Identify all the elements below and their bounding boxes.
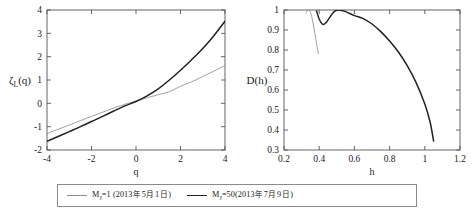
legend-date-open: (2013 [113, 190, 133, 199]
x-tick-label: 0 [134, 154, 139, 164]
x-tick-label: 2 [178, 154, 183, 164]
y-tick-label: 0.8 [267, 45, 279, 55]
zeta-q-plot: -4-2024-2-101234qζL(q) [0, 0, 236, 180]
series-line-0 [47, 66, 225, 134]
legend-date-month-char: 月 [268, 190, 277, 199]
y-tick-label: 2 [37, 52, 42, 62]
x-axis-label: q [134, 166, 139, 177]
d-h-plot: 0.20.40.60.811.20.30.40.50.60.70.80.91hD… [236, 0, 473, 180]
x-tick-label: -4 [43, 154, 51, 164]
x-axis-label: h [370, 166, 375, 177]
x-tick-label: 1 [422, 154, 427, 164]
y-tick-label: 3 [37, 29, 42, 39]
legend-date-day-char: 日 [281, 190, 290, 199]
y-tick-label: 0.6 [267, 85, 279, 95]
d-h-panel: 0.20.40.60.811.20.30.40.50.60.70.80.91hD… [236, 0, 473, 180]
y-tick-label: 0.9 [267, 25, 279, 35]
y-tick-label: 4 [37, 5, 42, 15]
legend-value: =1 [102, 190, 111, 199]
y-tick-label: 0.7 [267, 65, 279, 75]
y-axis-label: ζL(q) [9, 74, 31, 89]
legend-date-year-char: 年 [133, 190, 142, 199]
figure-container: -4-2024-2-101234qζL(q) 0.20.40.60.811.20… [0, 0, 473, 213]
y-tick-label: 0.5 [267, 105, 279, 115]
legend-item-mj1: MJ=1 (2013年5月1日) [58, 191, 171, 201]
legend-date-close: ) [290, 190, 293, 199]
legend-swatch-mj50 [187, 195, 207, 196]
y-tick-label: 0.4 [267, 125, 279, 135]
plot-frame [284, 10, 460, 150]
y-tick-label: -2 [34, 145, 42, 155]
legend-date-day-char: 日 [159, 190, 168, 199]
legend-date-year-char: 年 [255, 190, 264, 199]
legend-date-open: (2013 [235, 190, 255, 199]
series-line-1 [317, 10, 434, 141]
y-tick-label: 0.3 [267, 145, 279, 155]
x-tick-label: 1.2 [454, 154, 466, 164]
y-tick-label: 1 [37, 75, 42, 85]
legend-label-mj1: MJ=1 (2013年5月1日) [92, 191, 171, 201]
legend: MJ=1 (2013年5月1日) MJ=50(2013年7月9日) [57, 184, 417, 207]
y-tick-label: 0 [37, 99, 42, 109]
legend-swatch-mj1 [67, 195, 87, 196]
x-tick-label: -2 [88, 154, 96, 164]
y-tick-label: 1 [274, 5, 279, 15]
legend-label-mj50: MJ=50(2013年7月9日) [212, 191, 293, 201]
series-line-0 [306, 10, 318, 54]
x-tick-label: 0.6 [348, 154, 360, 164]
legend-date-month-char: 月 [146, 190, 155, 199]
y-axis-label: D(h) [247, 74, 268, 87]
legend-item-mj50: MJ=50(2013年7月9日) [171, 191, 293, 201]
legend-value: =50 [222, 190, 235, 199]
x-tick-label: 4 [223, 154, 228, 164]
x-tick-label: 0.8 [384, 154, 396, 164]
zeta-q-panel: -4-2024-2-101234qζL(q) [0, 0, 236, 180]
x-tick-label: 0.2 [278, 154, 290, 164]
y-tick-label: -1 [34, 122, 42, 132]
x-tick-label: 0.4 [313, 154, 325, 164]
